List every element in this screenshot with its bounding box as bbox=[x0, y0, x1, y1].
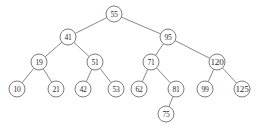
node-label-21: 21 bbox=[52, 85, 60, 94]
tree-edge-120-to-125 bbox=[222, 68, 236, 83]
tree-edge-55-to-95 bbox=[121, 17, 160, 34]
tree-node-51[interactable]: 51 bbox=[87, 54, 103, 70]
tree-edge-41-to-51 bbox=[74, 42, 89, 56]
node-label-55: 55 bbox=[110, 10, 118, 19]
node-label-95: 95 bbox=[164, 33, 172, 42]
tree-edge-95-to-120 bbox=[175, 41, 210, 59]
tree-canvas: 5541951951711201021425362819912575 bbox=[0, 0, 260, 131]
tree-edge-51-to-42 bbox=[86, 69, 92, 81]
tree-node-53[interactable]: 53 bbox=[108, 81, 124, 97]
tree-edge-51-to-53 bbox=[100, 68, 111, 82]
node-label-42: 42 bbox=[79, 85, 87, 94]
node-label-125: 125 bbox=[236, 85, 249, 94]
node-label-62: 62 bbox=[135, 85, 143, 94]
node-label-19: 19 bbox=[35, 58, 43, 67]
node-label-10: 10 bbox=[13, 85, 21, 94]
tree-node-81[interactable]: 81 bbox=[168, 81, 184, 97]
binary-search-tree-diagram: 5541951951711201021425362819912575 bbox=[0, 0, 260, 131]
tree-node-55[interactable]: 55 bbox=[106, 6, 122, 22]
tree-node-99[interactable]: 99 bbox=[197, 81, 213, 97]
tree-node-125[interactable]: 125 bbox=[234, 81, 250, 97]
node-label-75: 75 bbox=[162, 110, 170, 119]
node-group: 5541951951711201021425362819912575 bbox=[9, 6, 250, 122]
node-label-120: 120 bbox=[211, 58, 224, 67]
tree-edge-41-to-19 bbox=[45, 42, 62, 57]
tree-node-19[interactable]: 19 bbox=[31, 54, 47, 70]
tree-node-21[interactable]: 21 bbox=[48, 81, 64, 97]
tree-edge-19-to-21 bbox=[43, 69, 51, 82]
tree-node-75[interactable]: 75 bbox=[158, 106, 174, 122]
tree-node-41[interactable]: 41 bbox=[60, 29, 76, 45]
tree-edge-71-to-81 bbox=[156, 68, 170, 83]
tree-edge-55-to-41 bbox=[75, 18, 107, 34]
node-label-81: 81 bbox=[172, 85, 180, 94]
node-label-51: 51 bbox=[91, 58, 99, 67]
node-label-71: 71 bbox=[147, 58, 155, 67]
tree-edge-95-to-71 bbox=[156, 44, 164, 56]
tree-edge-120-to-99 bbox=[208, 69, 214, 81]
node-label-41: 41 bbox=[64, 33, 72, 42]
tree-node-62[interactable]: 62 bbox=[131, 81, 147, 97]
tree-edge-19-to-10 bbox=[22, 68, 34, 83]
tree-node-120[interactable]: 120 bbox=[209, 54, 225, 70]
tree-edge-71-to-62 bbox=[142, 69, 148, 81]
tree-node-71[interactable]: 71 bbox=[143, 54, 159, 70]
tree-node-10[interactable]: 10 bbox=[9, 81, 25, 97]
tree-node-95[interactable]: 95 bbox=[160, 29, 176, 45]
node-label-99: 99 bbox=[201, 85, 209, 94]
node-label-53: 53 bbox=[112, 85, 120, 94]
tree-edge-81-to-75 bbox=[169, 96, 173, 106]
tree-node-42[interactable]: 42 bbox=[75, 81, 91, 97]
